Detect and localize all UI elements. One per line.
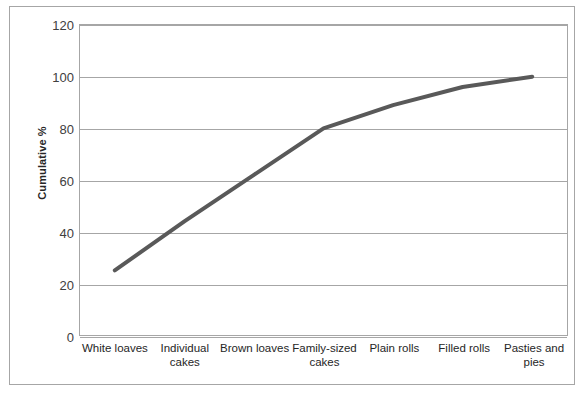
- y-axis-title: Cumulative %: [36, 103, 48, 223]
- y-axis-tick-label: 60: [60, 174, 74, 189]
- y-axis-tick-label: 80: [60, 122, 74, 137]
- gridline: [80, 337, 567, 338]
- x-axis-tick-label: White loaves: [75, 342, 155, 356]
- x-axis-tick-label: Family-sized cakes: [285, 342, 365, 369]
- plot-area: 020406080100120 White loavesIndividual c…: [79, 24, 568, 336]
- chart-frame: Cumulative % 020406080100120 White loave…: [9, 6, 575, 385]
- x-axis-tick-label: Plain rolls: [354, 342, 434, 356]
- y-axis-tick-label: 40: [60, 226, 74, 241]
- series-line-chart: [80, 25, 567, 335]
- y-axis-tick-label: 20: [60, 278, 74, 293]
- x-axis-tick-label: Pasties and pies: [494, 342, 574, 369]
- x-axis-tick-label: Filled rolls: [424, 342, 504, 356]
- x-axis-tick-label: Individual cakes: [145, 342, 225, 369]
- y-axis-tick-label: 100: [52, 70, 74, 85]
- x-axis-tick-label: Brown loaves: [215, 342, 295, 356]
- y-axis-tick-label: 120: [52, 18, 74, 33]
- cumulative-percent-line: [115, 77, 532, 271]
- y-axis-tick-label: 0: [67, 330, 74, 345]
